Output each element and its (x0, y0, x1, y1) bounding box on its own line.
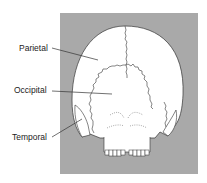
cranium-outline (72, 26, 183, 138)
label-temporal: Temporal (12, 133, 47, 142)
label-parietal: Parietal (19, 44, 48, 53)
label-occipital: Occipital (14, 86, 47, 95)
skull-diagram: Parietal Occipital Temporal (0, 0, 207, 183)
